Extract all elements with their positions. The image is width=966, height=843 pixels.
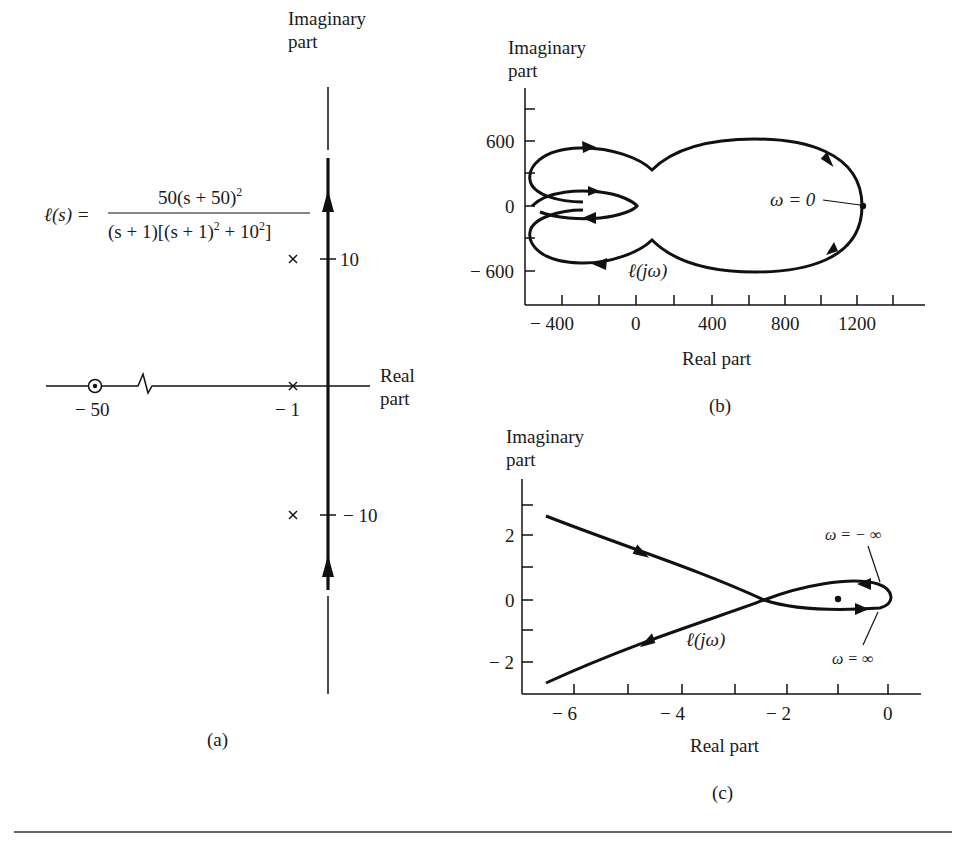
panel-c: Imaginary part 2 0 − 2 − 6 − 4 − 2 0 Rea <box>489 426 921 804</box>
omega-inf-label: ω = ∞ <box>832 650 874 667</box>
omega-neg-inf-leader <box>868 546 880 582</box>
panel-b-ytick-600: 600 <box>486 131 515 152</box>
panel-b-curve-label: ℓ(jω) <box>628 260 667 282</box>
omega-zero-leader <box>823 200 860 205</box>
panel-c-ytick-neg2: − 2 <box>489 652 514 673</box>
tick-label-minus50: − 50 <box>75 399 109 420</box>
transfer-function: ℓ(s) = 50(s + 50)2 (s + 1)[(s + 1)2 + 10… <box>44 185 310 243</box>
tick-label-minus1: − 1 <box>275 399 300 420</box>
tick-label-plus10: 10 <box>340 249 359 270</box>
double-zero-dot <box>93 384 97 388</box>
panel-c-curve-label: ℓ(jω) <box>686 629 725 651</box>
arrow-left-icon <box>592 258 607 270</box>
panel-a-x-label-2: part <box>380 388 410 409</box>
panel-b-xtick-neg400: − 400 <box>530 313 574 334</box>
panel-c-xtick-neg2: − 2 <box>766 703 791 724</box>
panel-a-x-label-1: Real <box>380 365 415 386</box>
panel-c-xtick-neg6: − 6 <box>552 703 577 724</box>
panel-b-y-label-1: Imaginary <box>508 37 587 58</box>
panel-b-y-label-2: part <box>508 60 538 81</box>
panel-b: Imaginary part 600 0 − 600 <box>470 37 925 417</box>
arrow-left-icon <box>582 212 596 224</box>
panel-a-y-label-2: part <box>288 31 318 52</box>
panel-b-xtick-0: 0 <box>631 313 641 334</box>
panel-c-x-ticks <box>574 684 888 694</box>
panel-b-ytick-neg600: − 600 <box>470 261 514 282</box>
panel-b-ytick-0: 0 <box>505 196 515 217</box>
panel-b-xtick-1200: 1200 <box>838 313 876 334</box>
panel-c-ytick-2: 2 <box>505 525 515 546</box>
panel-c-x-label: Real part <box>690 735 760 756</box>
panel-a-caption: (a) <box>207 729 228 751</box>
tf-numerator: 50(s + 50)2 <box>158 185 242 209</box>
figure-canvas: Imaginary part 10 − 10 − 1 − 50 Re <box>0 0 966 843</box>
contour-arrow-up-icon <box>322 555 334 577</box>
omega-zero-point <box>860 203 866 209</box>
panel-a: Imaginary part 10 − 10 − 1 − 50 Re <box>44 8 415 751</box>
panel-c-xtick-neg4: − 4 <box>660 703 685 724</box>
omega-neg-inf-label: ω = − ∞ <box>825 526 881 543</box>
arrow-right-icon <box>582 141 596 153</box>
pole-icon <box>289 255 297 263</box>
tf-lhs: ℓ(s) = <box>44 204 90 226</box>
panel-a-y-label-1: Imaginary <box>288 8 367 29</box>
contour-arrow-up-icon <box>322 190 334 212</box>
tick-label-minus10: − 10 <box>343 505 377 526</box>
panel-c-caption: (c) <box>712 782 733 804</box>
arrow-down-right-icon <box>632 544 651 558</box>
panel-b-xtick-800: 800 <box>771 313 800 334</box>
panel-b-xtick-400: 400 <box>698 313 727 334</box>
panel-c-y-ticks <box>522 505 533 662</box>
arrow-right-icon <box>855 603 869 615</box>
pole-icon <box>289 511 297 519</box>
panel-b-x-ticks <box>562 295 893 305</box>
panel-c-ytick-0: 0 <box>505 590 515 611</box>
panel-c-y-label-2: part <box>506 449 536 470</box>
panel-c-y-label-1: Imaginary <box>506 426 585 447</box>
panel-b-caption: (b) <box>709 395 731 417</box>
arrow-right-icon <box>588 186 600 196</box>
tf-denominator: (s + 1)[(s + 1)2 + 102] <box>108 219 271 243</box>
omega-inf-leader <box>863 612 878 645</box>
critical-point <box>835 596 841 602</box>
omega-zero-label: ω = 0 <box>770 189 816 210</box>
panel-c-xtick-0: 0 <box>883 703 893 724</box>
panel-b-x-label: Real part <box>682 348 752 369</box>
